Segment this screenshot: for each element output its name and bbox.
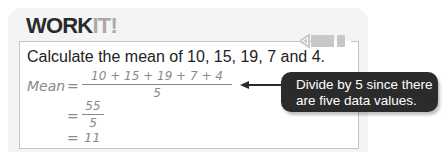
callout-line-1: Divide by 5 since there <box>296 77 433 93</box>
equals-sign-1: = <box>67 78 79 94</box>
result-value: 11 <box>84 130 101 145</box>
equals-sign-3: = <box>67 130 79 146</box>
pencil-icon <box>300 34 350 48</box>
denominator-step-1: 5 <box>82 86 232 100</box>
fraction-step-2: 55 5 <box>82 99 104 130</box>
equals-sign-2: = <box>67 108 79 124</box>
fraction-step-1: 10 + 15 + 19 + 7 + 4 5 <box>82 69 232 100</box>
frame-top-border <box>19 41 313 42</box>
fraction-bar-2 <box>82 114 104 115</box>
numerator-step-2: 55 <box>82 99 104 113</box>
work-it-example: WORKIT! Calculate the mean of 10, 15, 19… <box>0 0 448 152</box>
callout-line-2: are five data values. <box>296 93 433 109</box>
frame-top-border-right <box>351 41 358 42</box>
title-work: WORK <box>26 13 92 38</box>
title-it: IT! <box>92 13 116 38</box>
mean-label: Mean <box>27 78 65 94</box>
denominator-step-2: 5 <box>82 116 104 130</box>
fraction-bar-1 <box>82 84 232 85</box>
numerator-step-1: 10 + 15 + 19 + 7 + 4 <box>82 69 232 83</box>
callout-text: Divide by 5 since there are five data va… <box>296 77 433 109</box>
section-title: WORKIT! <box>26 12 117 40</box>
problem-prompt: Calculate the mean of 10, 15, 19, 7 and … <box>27 47 325 67</box>
